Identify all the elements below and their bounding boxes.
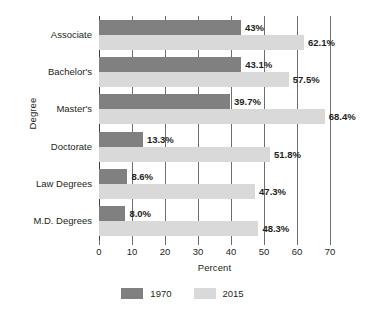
legend-item-2015[interactable]: 2015 — [194, 288, 244, 299]
x-tick-label-30: 30 — [183, 246, 213, 257]
x-tick-label-10: 10 — [117, 246, 147, 257]
bar-2015-master-s — [99, 109, 325, 124]
bar-value-label: 68.4% — [329, 109, 356, 124]
bar-value-label: 51.8% — [274, 147, 301, 162]
x-tick-label-70: 70 — [315, 246, 345, 257]
bar-1970-m-d-degrees — [99, 206, 125, 221]
bar-value-label: 43.1% — [245, 57, 272, 72]
bar-chart: Degree Percent 19702015 010203040506070A… — [0, 0, 365, 316]
bar-1970-associate — [99, 20, 241, 35]
chart-legend: 19702015 — [0, 288, 365, 299]
bar-1970-master-s — [99, 94, 230, 109]
bar-1970-law-degrees — [99, 169, 127, 184]
legend-item-1970[interactable]: 1970 — [121, 288, 171, 299]
bar-value-label: 8.0% — [129, 206, 151, 221]
x-tick-70 — [330, 240, 331, 245]
bar-value-label: 39.7% — [234, 94, 261, 109]
legend-label: 1970 — [150, 288, 171, 299]
x-axis-title: Percent — [99, 262, 330, 273]
bar-2015-law-degrees — [99, 184, 255, 199]
legend-swatch-1970 — [121, 288, 143, 299]
x-tick-60 — [297, 240, 298, 245]
x-tick-0 — [99, 240, 100, 245]
x-tick-20 — [165, 240, 166, 245]
legend-label: 2015 — [223, 288, 244, 299]
x-tick-label-50: 50 — [249, 246, 279, 257]
category-label-law-degrees: Law Degrees — [0, 178, 92, 189]
bar-value-label: 62.1% — [308, 35, 335, 50]
bar-value-label: 57.5% — [293, 72, 320, 87]
x-tick-30 — [198, 240, 199, 245]
bar-1970-doctorate — [99, 132, 143, 147]
category-label-bachelor-s: Bachelor's — [0, 66, 92, 77]
bar-value-label: 43% — [245, 20, 264, 35]
x-tick-40 — [231, 240, 232, 245]
bar-2015-associate — [99, 35, 304, 50]
x-tick-50 — [264, 240, 265, 245]
x-tick-label-60: 60 — [282, 246, 312, 257]
category-label-doctorate: Doctorate — [0, 141, 92, 152]
bar-value-label: 13.3% — [147, 132, 174, 147]
legend-swatch-2015 — [194, 288, 216, 299]
x-tick-label-0: 0 — [84, 246, 114, 257]
x-tick-label-20: 20 — [150, 246, 180, 257]
bar-value-label: 48.3% — [262, 221, 289, 236]
bar-2015-doctorate — [99, 147, 270, 162]
x-tick-10 — [132, 240, 133, 245]
bar-value-label: 47.3% — [259, 184, 286, 199]
bar-value-label: 8.6% — [131, 169, 153, 184]
bar-2015-bachelor-s — [99, 72, 289, 87]
bar-1970-bachelor-s — [99, 57, 241, 72]
bar-2015-m-d-degrees — [99, 221, 258, 236]
category-label-m-d-degrees: M.D. Degrees — [0, 215, 92, 226]
x-tick-label-40: 40 — [216, 246, 246, 257]
category-label-master-s: Master's — [0, 103, 92, 114]
category-label-associate: Associate — [0, 29, 92, 40]
